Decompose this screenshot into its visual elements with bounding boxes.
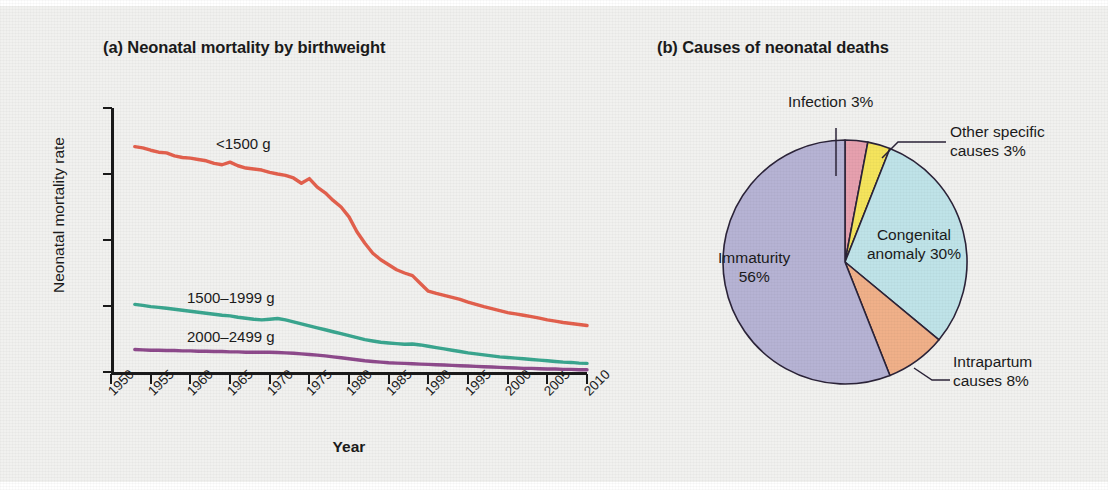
pie-label-intrapartum-causes: Intrapartum causes 8% (953, 353, 1032, 391)
pie-label-other-line1: Other specific (950, 123, 1045, 142)
pie-label-immaturity-line2: 56% (718, 267, 790, 286)
pie-label-congenital-anomaly: Congenital anomaly 30% (867, 225, 961, 264)
pie-label-immaturity-line1: Immaturity (718, 248, 790, 267)
pie-label-other-specific-causes: Other specific causes 3% (950, 123, 1045, 161)
pie-label-congenital-line2: anomaly 30% (867, 244, 961, 263)
pie-label-intrapartum-line1: Intrapartum (953, 353, 1032, 372)
series-label-2000-2499: 2000–2499 g (187, 328, 275, 345)
series-label-under1500: <1500 g (216, 135, 271, 152)
page-bottom-edge (0, 482, 1108, 490)
pie-label-congenital-line1: Congenital (867, 225, 961, 244)
series-label-1500-1999: 1500–1999 g (187, 289, 275, 306)
pie-label-immaturity: Immaturity 56% (718, 248, 790, 287)
pie-leader-line-2 (914, 368, 950, 380)
page-top-edge (0, 0, 1108, 6)
pie-label-other-line2: causes 3% (950, 142, 1045, 161)
x-axis-title: Year (111, 438, 587, 456)
line-chart: Neonatal mortality rate 0200400600800 19… (30, 80, 610, 460)
pie-chart: Infection 3% Other specific causes 3% In… (620, 80, 1108, 460)
panel-a-title: (a) Neonatal mortality by birthweight (103, 38, 385, 57)
pie-label-infection: Infection 3% (788, 93, 873, 112)
panel-b-title: (b) Causes of neonatal deaths (657, 38, 889, 57)
pie-label-intrapartum-line2: causes 8% (953, 372, 1032, 391)
line-series-svg (30, 80, 610, 460)
figure-container: (a) Neonatal mortality by birthweight (b… (0, 0, 1108, 490)
